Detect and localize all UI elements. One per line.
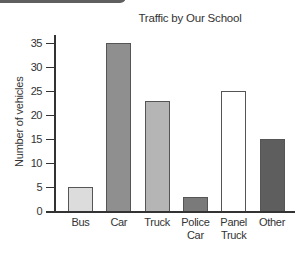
x-category-label: Other xyxy=(252,216,292,229)
x-category-label: PoliceCar xyxy=(175,216,215,242)
x-category-label-line: Police xyxy=(175,216,215,229)
chart-title: Traffic by Our School xyxy=(90,12,290,24)
y-tick-label: 10 xyxy=(20,157,42,169)
bar-car xyxy=(106,43,131,212)
x-category-label-line: Truck xyxy=(214,229,254,242)
x-axis xyxy=(46,211,295,213)
x-category-label-line: Car xyxy=(99,216,139,229)
bar-panel-truck xyxy=(221,91,246,212)
bar-truck xyxy=(145,101,170,212)
y-tick-label: 35 xyxy=(20,37,42,49)
bar-other xyxy=(260,139,285,212)
x-category-label-line: Panel xyxy=(214,216,254,229)
y-tick-label: 15 xyxy=(20,133,42,145)
x-category-label-line: Bus xyxy=(61,216,101,229)
x-category-label: Car xyxy=(99,216,139,229)
bar-bus xyxy=(68,187,93,212)
y-tick-label: 5 xyxy=(20,181,42,193)
x-category-label-line: Truck xyxy=(137,216,177,229)
x-category-label-line: Car xyxy=(175,229,215,242)
y-axis xyxy=(54,35,56,212)
y-tick-label: 20 xyxy=(20,109,42,121)
y-tick-label: 30 xyxy=(20,61,42,73)
y-tick-label: 25 xyxy=(20,85,42,97)
x-category-label: PanelTruck xyxy=(214,216,254,242)
bar-police-car xyxy=(183,197,208,212)
x-category-label: Bus xyxy=(61,216,101,229)
x-category-label: Truck xyxy=(137,216,177,229)
header-banner xyxy=(0,0,126,3)
x-category-label-line: Other xyxy=(252,216,292,229)
y-tick-label: 0 xyxy=(20,205,42,217)
